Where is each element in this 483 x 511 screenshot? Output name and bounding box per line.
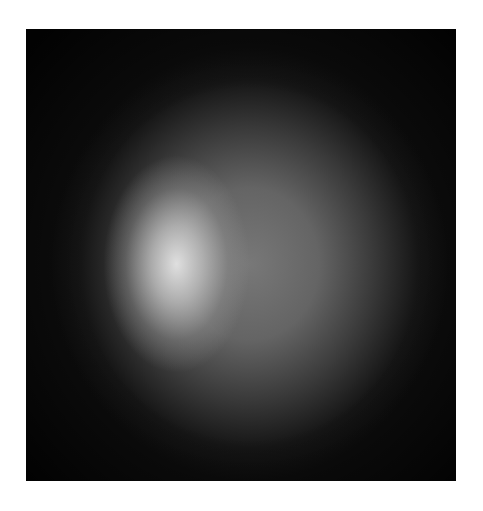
- photo-vignette: [26, 29, 456, 481]
- sphere-photo: [26, 29, 456, 481]
- page-frame: [0, 0, 483, 511]
